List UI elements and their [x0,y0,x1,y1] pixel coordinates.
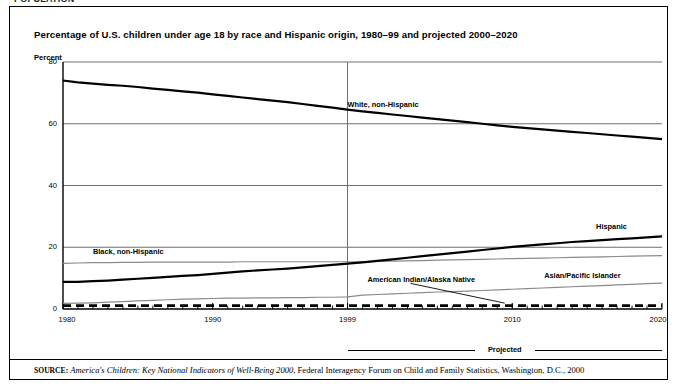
series-label-hispanic: Hispanic [596,222,627,231]
y-axis-tick-label-0: 0 [31,304,57,313]
clipped-header-text: POPULATION [14,0,86,5]
y-axis-tick-label-80: 80 [31,57,57,66]
y-axis-tick-label-60: 60 [31,119,57,128]
source-title: America's Children: Key National Indicat… [70,365,293,375]
x-axis-tick-label-1980: 1980 [47,315,87,324]
x-axis-tick-label-1990: 1990 [193,315,233,324]
series-label-black-non-hispanic: Black, non-Hispanic [93,247,164,256]
y-axis-tick-label-40: 40 [31,181,57,190]
x-axis-tick-label-2010: 2010 [492,315,532,324]
leader-line-american-indian [410,283,504,303]
x-axis-tick-label-2020: 2020 [638,315,678,324]
chart-svg [10,7,667,347]
source-divider [10,359,667,360]
projected-line-right [535,350,662,351]
series-label-white-non-hispanic: White, non-Hispanic [348,100,419,109]
source-keyword: SOURCE: [34,366,68,375]
figure-frame: Percentage of U.S. children under age 18… [9,6,668,380]
series-label-american-indian-alaska-native: American Indian/Alaska Native [367,275,475,284]
source-rest: , Federal Interagency Forum on Child and… [293,365,584,375]
series-line-asian-pacific-islander [63,283,662,303]
y-axis-tick-label-20: 20 [31,242,57,251]
series-line-white-non-hispanic [63,81,662,140]
source-note: SOURCE: America's Children: Key National… [34,365,649,377]
projected-line-left [348,350,475,351]
series-label-asian-pacific-islander: Asian/Pacific Islander [544,271,620,280]
x-axis-tick-label-1999: 1999 [328,315,368,324]
